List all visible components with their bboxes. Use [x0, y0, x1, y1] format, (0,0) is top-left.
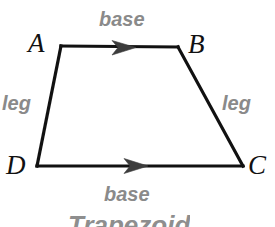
vertex-label-b: B [188, 31, 205, 58]
trapezoid-figure: A B C D base leg leg base Trapezoid [0, 0, 275, 227]
edge-label-base-top: base [99, 9, 145, 29]
edge-label-leg-left: leg [2, 93, 31, 113]
edge-label-leg-right: leg [222, 93, 251, 113]
figure-caption: Trapezoid [68, 212, 190, 227]
vertex-label-d: D [6, 152, 26, 179]
vertex-label-a: A [28, 30, 45, 57]
vertex-label-c: C [248, 152, 266, 179]
trapezoid-outline [37, 46, 243, 166]
edge-left-leg [37, 46, 61, 166]
edge-label-base-bottom: base [104, 184, 150, 204]
